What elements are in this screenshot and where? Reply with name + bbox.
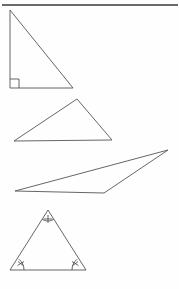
figure-page: Four triangles	[0, 0, 179, 289]
obtuse-triangle-outline	[15, 150, 168, 193]
right-angle-square-icon	[10, 79, 19, 88]
angle-mark-bottom-right	[72, 259, 79, 270]
acute-triangle-outline	[14, 99, 112, 141]
right-triangle	[10, 10, 73, 88]
acute-triangle	[14, 99, 112, 141]
right-triangle-outline	[10, 10, 73, 88]
isosceles-triangle	[10, 210, 86, 270]
obtuse-triangle	[15, 150, 168, 193]
triangles-figure	[0, 0, 179, 289]
angle-mark-bottom-left	[18, 259, 25, 270]
